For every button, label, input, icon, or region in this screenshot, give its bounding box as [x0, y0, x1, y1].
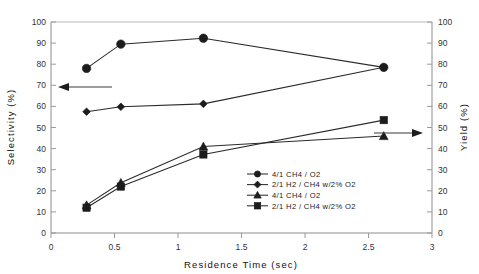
- circle-data-point: [82, 64, 90, 72]
- legend-label: 2/1 H2 / CH4 w/2% O2: [272, 180, 356, 189]
- right-tick-label: 50: [438, 123, 448, 133]
- right-tick-label: 40: [438, 144, 448, 154]
- left-tick-label: 80: [37, 59, 47, 69]
- y-axis-title: Selectivity (%): [5, 89, 16, 166]
- square-data-point: [380, 117, 387, 124]
- right-tick-label: 100: [438, 17, 452, 27]
- series-line-1: [87, 67, 384, 111]
- left-axis-tick-labels: 100 90 80 70 60 50 40 30 20 10 0: [32, 17, 46, 238]
- right-tick-label: 0: [438, 228, 443, 238]
- left-tick-label: 10: [37, 207, 47, 217]
- series-3: [83, 117, 387, 212]
- x-axis-ticks: [51, 233, 432, 238]
- x-tick-label: 1.5: [236, 242, 248, 252]
- legend-entry[interactable]: 4/1 CH4 / O2: [247, 170, 321, 179]
- right-axis-tick-labels: 100 90 80 70 60 50 40 30 20 10 0: [438, 17, 452, 238]
- right-tick-label: 30: [438, 165, 448, 175]
- legend-label: 4/1 CH4 / O2: [272, 191, 321, 200]
- square-data-point: [83, 204, 90, 211]
- legend-entry[interactable]: 2/1 H2 / CH4 w/2% O2: [247, 202, 356, 211]
- square-data-point: [117, 183, 124, 190]
- diamond-data-point: [83, 108, 91, 116]
- right-tick-label: 80: [438, 59, 448, 69]
- right-tick-label: 10: [438, 207, 448, 217]
- legend-diamond-marker-icon: [254, 181, 261, 188]
- x-axis-tick-labels: 0 0.5 1 1.5 2 2.5 3: [49, 242, 435, 252]
- x-tick-label: 2: [303, 242, 308, 252]
- diamond-data-point: [200, 100, 208, 108]
- left-tick-label: 40: [37, 144, 47, 154]
- legend-label: 2/1 H2 / CH4 w/2% O2: [272, 202, 356, 211]
- y2-axis-title: Yield (%): [458, 103, 469, 151]
- left-tick-label: 90: [37, 38, 47, 48]
- diamond-data-point: [117, 103, 125, 111]
- legend-square-marker-icon: [254, 203, 260, 209]
- series-1: [83, 64, 388, 116]
- left-tick-label: 0: [41, 228, 46, 238]
- circle-data-point: [117, 40, 125, 48]
- series-0: [82, 34, 388, 73]
- circle-data-point: [199, 34, 207, 42]
- x-tick-label: 2.5: [363, 242, 375, 252]
- x-tick-label: 0.5: [109, 242, 121, 252]
- left-tick-label: 100: [32, 17, 46, 27]
- x-tick-label: 0: [49, 242, 54, 252]
- left-tick-label: 60: [37, 101, 47, 111]
- left-tick-label: 70: [37, 80, 47, 90]
- right-tick-label: 70: [438, 80, 448, 90]
- legend-entry[interactable]: 2/1 H2 / CH4 w/2% O2: [247, 180, 356, 189]
- legend-entry[interactable]: 4/1 CH4 / O2: [247, 191, 321, 200]
- legend-label: 4/1 CH4 / O2: [272, 170, 321, 179]
- x-tick-label: 1: [176, 242, 181, 252]
- square-data-point: [200, 151, 207, 158]
- legend: 4/1 CH4 / O2 2/1 H2 / CH4 w/2% O2 4/1 CH…: [247, 170, 356, 211]
- left-tick-label: 30: [37, 165, 47, 175]
- right-tick-label: 20: [438, 186, 448, 196]
- left-axis-pointer-arrow: [58, 83, 112, 91]
- x-axis-title: Residence Time (sec): [184, 259, 298, 270]
- series-line-0: [87, 38, 384, 68]
- right-axis-ticks: [427, 22, 432, 233]
- legend-circle-marker-icon: [254, 171, 260, 177]
- right-tick-label: 60: [438, 101, 448, 111]
- series-2: [82, 132, 388, 209]
- series-line-3: [87, 120, 384, 208]
- left-axis-ticks: [51, 22, 56, 233]
- series-line-2: [87, 136, 384, 205]
- x-tick-label: 3: [430, 242, 435, 252]
- left-tick-label: 20: [37, 186, 47, 196]
- line-chart-svg: 100 90 80 70 60 50 40 30 20 10 0: [0, 0, 479, 274]
- chart-container: 100 90 80 70 60 50 40 30 20 10 0: [0, 0, 479, 274]
- left-tick-label: 50: [37, 123, 47, 133]
- right-tick-label: 90: [438, 38, 448, 48]
